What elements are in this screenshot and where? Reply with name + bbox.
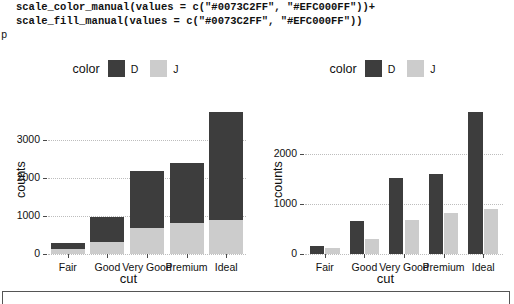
- legend-right: color D J: [257, 60, 514, 77]
- bar-d: [350, 221, 364, 254]
- y-axis-tick-label: 2000: [261, 147, 297, 159]
- y-axis-tick-mark: [300, 254, 304, 255]
- console-pane-border: [2, 291, 510, 304]
- x-axis-tick-mark: [404, 254, 405, 258]
- bar-segment-j: [90, 242, 124, 254]
- plots-row: color D J counts 0100020003000FairGoodVe…: [0, 48, 514, 288]
- bar-d: [389, 178, 403, 254]
- x-axis-tick-mark: [226, 254, 227, 258]
- x-axis-tick-mark: [187, 254, 188, 258]
- y-axis-tick-mark: [43, 216, 47, 217]
- bar-segment-j: [170, 223, 204, 254]
- chart-panel-stacked: color D J counts 0100020003000FairGoodVe…: [0, 48, 257, 288]
- y-axis-tick-mark: [300, 204, 304, 205]
- y-axis-tick-label: 2000: [4, 171, 40, 183]
- y-axis-tick-label: 3000: [4, 133, 40, 145]
- plot-area-stacked: 0100020003000FairGoodVery GoodPremiumIde…: [48, 106, 246, 254]
- bar-segment-d: [130, 171, 164, 228]
- bar-j: [405, 220, 419, 254]
- bar-j: [484, 209, 498, 254]
- x-axis-tick-mark: [444, 254, 445, 258]
- legend-label-j: J: [173, 63, 178, 75]
- x-axis-tick-mark: [325, 254, 326, 258]
- y-axis-tick-mark: [43, 178, 47, 179]
- legend-swatch-j-icon: [150, 60, 167, 77]
- bar-j: [325, 248, 339, 254]
- bar-segment-d: [90, 217, 124, 242]
- bar-segment-d: [170, 163, 204, 224]
- y-axis-tick-label: 1000: [261, 197, 297, 209]
- y-axis-tick-mark: [43, 254, 47, 255]
- bar-j: [444, 213, 458, 254]
- bar-d: [310, 246, 324, 254]
- legend-swatch-j-icon: [407, 60, 424, 77]
- x-axis-tick-mark: [68, 254, 69, 258]
- bar-j: [365, 239, 379, 254]
- bar-segment-d: [51, 243, 85, 249]
- bar-segment-j: [209, 220, 243, 254]
- y-axis-tick-mark: [43, 140, 47, 141]
- x-axis-label: cut: [0, 271, 257, 286]
- legend-label-j: J: [430, 63, 435, 75]
- legend-label-d: D: [388, 63, 396, 75]
- x-axis-tick-mark: [107, 254, 108, 258]
- bar-d: [468, 112, 482, 254]
- legend-swatch-d-icon: [108, 60, 125, 77]
- bar-segment-j: [130, 228, 164, 254]
- legend-left: color D J: [0, 60, 257, 77]
- y-axis-tick-label: 0: [4, 247, 40, 259]
- bar-segment-d: [209, 112, 243, 220]
- bar-d: [429, 174, 443, 254]
- code-line-scale-color-manual: scale_color_manual(values = c("#0073C2FF…: [0, 0, 514, 14]
- x-axis-label: cut: [257, 271, 514, 286]
- legend-swatch-d-icon: [365, 60, 382, 77]
- legend-title: color: [330, 62, 357, 76]
- x-axis-tick-mark: [483, 254, 484, 258]
- x-axis-tick-mark: [147, 254, 148, 258]
- x-axis-tick-mark: [364, 254, 365, 258]
- y-axis-label: counts: [271, 161, 285, 198]
- r-code-block: scale_color_manual(values = c("#0073C2FF…: [0, 0, 514, 48]
- plot-area-grouped: 010002000FairGoodVery GoodPremiumIdeal: [305, 106, 503, 254]
- legend-title: color: [73, 62, 100, 76]
- y-axis-tick-label: 0: [261, 247, 297, 259]
- y-axis-tick-mark: [300, 154, 304, 155]
- legend-label-d: D: [131, 63, 139, 75]
- code-line-scale-fill-manual: scale_fill_manual(values = c("#0073C2FF"…: [0, 14, 514, 28]
- y-axis-tick-label: 1000: [4, 209, 40, 221]
- chart-panel-grouped: color D J counts 010002000FairGoodVery G…: [257, 48, 514, 288]
- code-line-prompt: p: [0, 28, 514, 42]
